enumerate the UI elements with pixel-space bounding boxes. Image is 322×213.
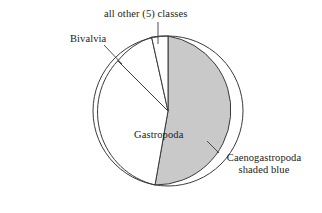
- slice-label-caenogastropoda: Caenogastropodashaded blue: [216, 152, 312, 176]
- slice-label-gastropoda: Gastropoda: [134, 129, 183, 141]
- slice-label-caenogastropoda-line2: shaded blue: [216, 164, 312, 176]
- pie-chart-graphic: [0, 0, 322, 213]
- slice-label-caenogastropoda-line1: Caenogastropoda: [227, 152, 301, 163]
- slice-label-bivalvia: Bivalvia: [70, 33, 106, 45]
- pie-chart-figure: all other (5) classes Bivalvia Gastropod…: [0, 0, 322, 213]
- slice-label-all-other-classes: all other (5) classes: [104, 8, 187, 20]
